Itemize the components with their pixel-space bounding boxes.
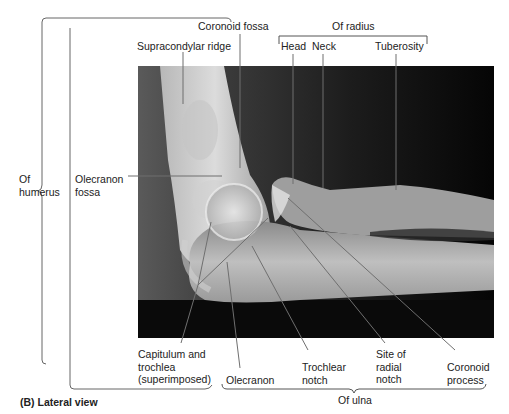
label-of-ulna: Of ulna [338, 394, 372, 407]
label-olecranon: Olecranon [226, 374, 274, 387]
label-trochlear-notch: Trochlear notch [302, 361, 346, 386]
label-of-radius: Of radius [332, 20, 375, 33]
label-coronoid-fossa: Coronoid fossa [198, 20, 269, 33]
label-tuberosity: Tuberosity [375, 40, 424, 53]
xray-and-leaders [0, 0, 509, 414]
label-supracondylar-ridge: Supracondylar ridge [137, 40, 231, 53]
label-capitulum-trochlea: Capitulum and trochlea (superimposed) [138, 348, 211, 386]
label-olecranon-fossa: Olecranon fossa [75, 173, 123, 198]
label-of-humerus: Of humerus [19, 173, 60, 198]
label-neck: Neck [312, 40, 336, 53]
label-coronoid-process: Coronoid process [447, 361, 490, 386]
label-site-radial-notch: Site of radial notch [376, 348, 406, 386]
anatomy-figure: Coronoid fossa Supracondylar ridge Of ra… [0, 0, 509, 414]
figure-caption: (B) Lateral view [20, 396, 98, 408]
label-head: Head [281, 40, 306, 53]
